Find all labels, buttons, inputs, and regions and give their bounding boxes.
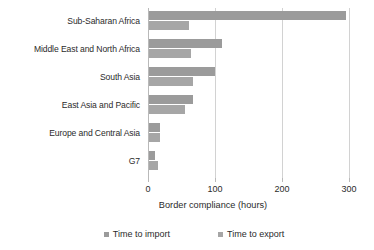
bar-export: [149, 21, 189, 30]
tick-mark: [282, 178, 283, 182]
bar-export: [149, 133, 160, 142]
x-axis-tick-labels: 0 100 200 300: [0, 184, 374, 198]
bar-export: [149, 77, 193, 86]
gridline-200: [282, 8, 283, 178]
bars-canvas: [148, 8, 350, 178]
bar-import: [149, 95, 193, 104]
x-axis-title: Border compliance (hours): [0, 200, 374, 210]
bar-export: [149, 49, 191, 58]
tick-label: 300: [329, 184, 369, 194]
gridline-100: [215, 8, 216, 178]
bar-import: [149, 151, 155, 160]
tick-label: 200: [262, 184, 302, 194]
bar-import: [149, 11, 346, 20]
bar-import: [149, 67, 215, 76]
tick-label: 0: [128, 184, 168, 194]
category-label: Europe and Central Asia: [0, 128, 140, 138]
category-label: Sub-Saharan Africa: [0, 16, 140, 26]
legend-item-import: Time to import: [104, 229, 170, 239]
bar-export: [149, 105, 185, 114]
category-label: Middle East and North Africa: [0, 44, 140, 54]
tick-mark: [349, 178, 350, 182]
legend-swatch-icon: [218, 232, 223, 237]
legend-item-export: Time to export: [218, 229, 284, 239]
category-label: G7: [0, 156, 140, 166]
bar-import: [149, 39, 222, 48]
legend-label: Time to import: [113, 229, 170, 239]
legend-label: Time to export: [227, 229, 284, 239]
chart-legend: Time to import Time to export: [0, 226, 374, 242]
category-axis-labels: Sub-Saharan Africa Middle East and North…: [0, 8, 144, 178]
chart-figure: Sub-Saharan Africa Middle East and North…: [0, 0, 374, 250]
tick-label: 100: [195, 184, 235, 194]
gridline-300: [349, 8, 350, 178]
tick-mark: [215, 178, 216, 182]
bar-import: [149, 123, 160, 132]
category-label: East Asia and Pacific: [0, 100, 140, 110]
tick-mark: [148, 178, 149, 182]
bar-export: [149, 161, 158, 170]
x-axis-ticks: [148, 178, 350, 182]
category-label: South Asia: [0, 72, 140, 82]
legend-swatch-icon: [104, 232, 109, 237]
plot-area: Sub-Saharan Africa Middle East and North…: [0, 0, 374, 185]
